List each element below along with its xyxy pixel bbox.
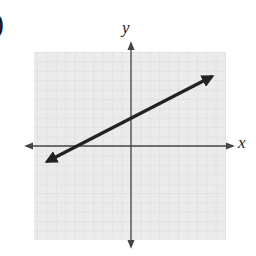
coordinate-plane [0,0,256,256]
